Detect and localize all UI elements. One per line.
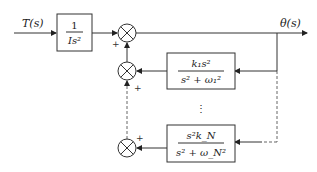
summing-junction-1 [118, 62, 136, 80]
main-junction-sign: + [112, 39, 120, 49]
feedback-block-n-numerator: s²k_N [187, 130, 217, 142]
ellipsis: ⋮ [196, 103, 206, 114]
plant-denominator: Is² [67, 35, 81, 46]
summing-junction-n [118, 139, 136, 157]
junction-n-sign: + [136, 133, 144, 143]
feedback-block-1-denominator: s² + ω₁² [181, 74, 221, 85]
block-diagram: T(s) 1 Is² + θ(s) k₁s² s² + ω₁² + ⋮ s²k_… [0, 0, 317, 172]
plant-numerator: 1 [71, 20, 77, 31]
feedback-block-1-numerator: k₁s² [191, 58, 210, 69]
feedback-block-n-denominator: s² + ω_N² [176, 147, 226, 159]
input-label: T(s) [22, 17, 44, 30]
junction-1-sign: + [134, 83, 142, 93]
output-label: θ(s) [280, 17, 301, 30]
main-summing-junction [118, 24, 136, 42]
